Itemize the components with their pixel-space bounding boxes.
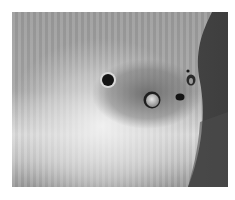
bore-hole-small — [176, 94, 185, 101]
bore-hole-large — [100, 72, 116, 88]
photo — [12, 12, 228, 187]
bore-hole-plugged — [144, 92, 161, 109]
stem-closeup-image — [12, 12, 228, 187]
